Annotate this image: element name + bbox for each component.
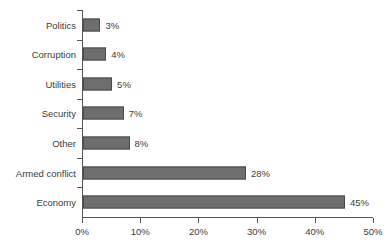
x-axis-tick-label: 50% bbox=[363, 226, 382, 237]
x-axis-tick bbox=[257, 218, 258, 223]
x-axis-tick-label: 40% bbox=[305, 226, 324, 237]
x-axis-tick bbox=[315, 218, 316, 223]
x-axis-tick-label: 20% bbox=[189, 226, 208, 237]
x-axis-tick-label: 10% bbox=[131, 226, 150, 237]
x-axis-tick bbox=[82, 218, 83, 223]
x-axis-tick bbox=[198, 218, 199, 223]
bar-chart: Politics3%Corruption4%Utilities5%Securit… bbox=[0, 0, 391, 251]
x-axis-tick bbox=[373, 218, 374, 223]
x-axis-tick bbox=[140, 218, 141, 223]
x-axis-tick-label: 0% bbox=[75, 226, 89, 237]
x-axis-ticks: 0%10%20%30%40%50% bbox=[0, 0, 391, 251]
x-axis-tick-label: 30% bbox=[247, 226, 266, 237]
